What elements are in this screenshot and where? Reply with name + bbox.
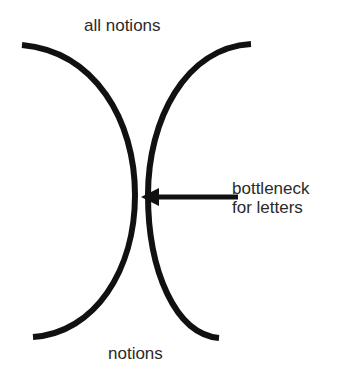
top-label: all notions	[84, 16, 161, 35]
annotation-line-2: for letters	[232, 198, 310, 217]
left-curve	[22, 45, 135, 337]
bottleneck-annotation: bottleneck for letters	[232, 179, 310, 217]
annotation-line-1: bottleneck	[232, 179, 310, 198]
bottom-label: notions	[108, 344, 163, 363]
